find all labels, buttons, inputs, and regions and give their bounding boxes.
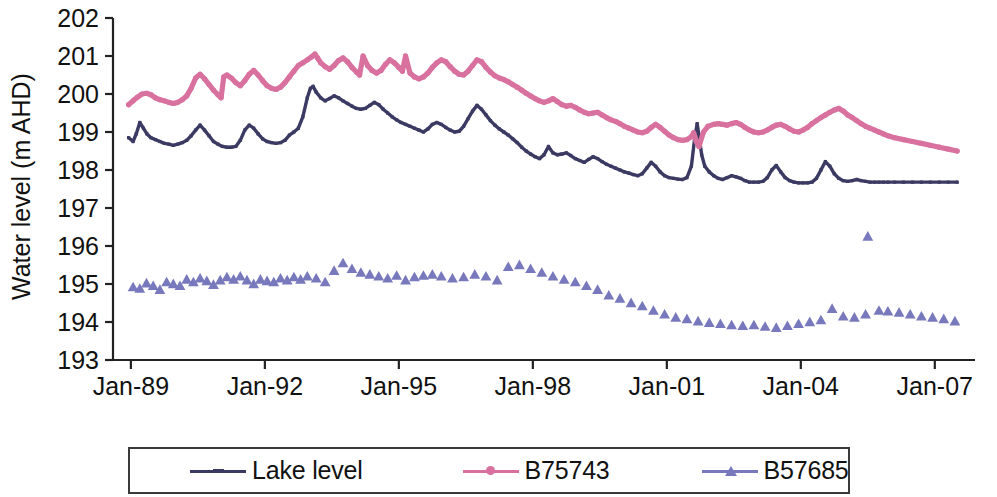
x-tick-label: Jan-01 — [629, 372, 705, 400]
chart-plot-area: 202201200199198197196195194193 Jan-89Jan… — [0, 0, 997, 440]
chart-legend: Lake level B75743 B57685 — [128, 447, 850, 494]
y-tick-label: 196 — [57, 232, 99, 260]
legend-item-b57685[interactable]: B57685 — [702, 449, 849, 492]
y-axis-ticks: 202201200199198197196195194193 — [57, 4, 113, 374]
legend-label-lake-level: Lake level — [252, 456, 363, 485]
legend-key-b57685 — [702, 461, 758, 481]
x-tick-label: Jan-98 — [495, 372, 571, 400]
legend-key-lake-level — [190, 461, 246, 481]
legend-marker-dot-icon — [486, 466, 495, 475]
x-tick-label: Jan-92 — [227, 372, 303, 400]
legend-item-b75743[interactable]: B75743 — [463, 449, 610, 492]
chart-series — [128, 231, 961, 332]
y-tick-label: 199 — [57, 118, 99, 146]
y-tick-label: 202 — [57, 4, 99, 32]
legend-label-b57685: B57685 — [764, 456, 849, 485]
x-axis-ticks: Jan-89Jan-92Jan-95Jan-98Jan-01Jan-04Jan-… — [93, 360, 973, 400]
y-tick-label: 200 — [57, 80, 99, 108]
x-tick-label: Jan-07 — [897, 372, 973, 400]
x-tick-label: Jan-95 — [361, 372, 437, 400]
legend-marker-triangle-icon — [725, 466, 737, 476]
chart-series-group — [126, 52, 960, 332]
y-tick-label: 201 — [57, 42, 99, 70]
legend-item-lake-level[interactable]: Lake level — [190, 449, 363, 492]
y-tick-label: 197 — [57, 194, 99, 222]
chart-axes — [113, 18, 975, 360]
legend-label-b75743: B75743 — [525, 456, 610, 485]
y-axis-label: Water level (m AHD) — [7, 73, 35, 300]
chart-series — [126, 52, 960, 154]
legend-key-b75743 — [463, 461, 519, 481]
water-level-chart: 202201200199198197196195194193 Jan-89Jan… — [0, 0, 997, 497]
y-tick-label: 195 — [57, 270, 99, 298]
y-tick-label: 193 — [57, 346, 99, 374]
x-tick-label: Jan-89 — [93, 372, 169, 400]
y-tick-label: 194 — [57, 308, 99, 336]
y-tick-label: 198 — [57, 156, 99, 184]
legend-marker-dash-icon — [213, 469, 224, 473]
x-tick-label: Jan-04 — [763, 372, 840, 400]
